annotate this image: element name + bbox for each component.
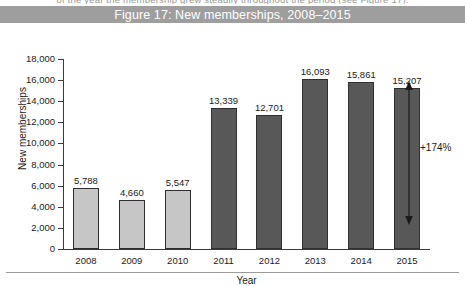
y-axis-tick-label-text: 14,000: [7, 95, 55, 106]
y-axis-tick: [58, 207, 63, 208]
bar-2014: [348, 82, 374, 249]
y-axis-tick: [58, 101, 63, 102]
bar-value-label-2009: 4,660: [102, 187, 162, 198]
bar-2013: [302, 79, 328, 249]
x-axis-label-2014: 2014: [336, 255, 386, 266]
y-axis-tick: [58, 59, 63, 60]
y-axis-tick-label-text: 10,000: [7, 137, 55, 148]
y-axis-tick-label: 14,000: [0, 95, 55, 107]
x-axis-title: Year: [63, 275, 430, 286]
bar-2010: [165, 190, 191, 249]
y-axis-tick-label: 6,000: [0, 180, 55, 192]
y-axis-tick-label: 18,000: [0, 53, 55, 65]
bar-2012: [256, 115, 282, 249]
cut-off-body-text: of the year the membership grew steadily…: [0, 0, 465, 4]
bar-value-label-2010: 5,547: [148, 177, 208, 188]
figure-title: Figure 17: New memberships, 2008–2015: [114, 8, 350, 22]
y-axis-tick-label-text: 6,000: [7, 180, 55, 191]
x-axis-label-2009: 2009: [107, 255, 157, 266]
bar-2008: [73, 188, 99, 249]
bar-value-label-2012: 12,701: [239, 102, 299, 113]
y-axis-line: [63, 59, 64, 249]
x-axis-label-2010: 2010: [153, 255, 203, 266]
bar-2015: [394, 88, 420, 249]
y-axis-tick-label-text: 18,000: [7, 53, 55, 64]
x-axis-label-2013: 2013: [290, 255, 340, 266]
x-axis-label-2015: 2015: [382, 255, 432, 266]
y-axis-tick: [58, 80, 63, 81]
y-axis-tick-label: 10,000: [0, 137, 55, 149]
y-axis-tick-label: 4,000: [0, 201, 55, 213]
y-axis-tick-label: 2,000: [0, 222, 55, 234]
x-axis-label-2012: 2012: [244, 255, 294, 266]
growth-annotation-label: +174%: [420, 142, 451, 153]
y-axis-tick-label-text: 8,000: [7, 159, 55, 170]
y-axis-tick: [58, 228, 63, 229]
figure-title-bar: Figure 17: New memberships, 2008–2015: [0, 6, 465, 23]
page-footer-rule: [6, 272, 459, 273]
bar-value-label-2015: 15,207: [377, 75, 437, 86]
y-axis-tick-label-text: 16,000: [7, 74, 55, 85]
y-axis-tick: [58, 143, 63, 144]
x-axis-label-2008: 2008: [61, 255, 111, 266]
y-axis-tick-label-text: 4,000: [7, 201, 55, 212]
bar-chart: New memberships Year 18,00016,00014,0001…: [0, 23, 465, 268]
bar-value-label-2008: 5,788: [56, 175, 116, 186]
y-axis-tick-label-text: 2,000: [7, 222, 55, 233]
x-axis-label-2011: 2011: [199, 255, 249, 266]
bar-2009: [119, 200, 145, 249]
y-axis-tick: [58, 122, 63, 123]
y-axis-tick-label: 0: [0, 243, 55, 255]
y-axis-tick-label: 8,000: [0, 159, 55, 171]
y-axis-tick-label: 12,000: [0, 116, 55, 128]
y-axis-tick-label-text: 0: [7, 243, 55, 254]
y-axis-tick-label: 16,000: [0, 74, 55, 86]
y-axis-tick: [58, 249, 63, 250]
y-axis-tick-label-text: 12,000: [7, 116, 55, 127]
bar-2011: [211, 108, 237, 249]
y-axis-tick: [58, 165, 63, 166]
x-axis-line: [63, 249, 430, 250]
